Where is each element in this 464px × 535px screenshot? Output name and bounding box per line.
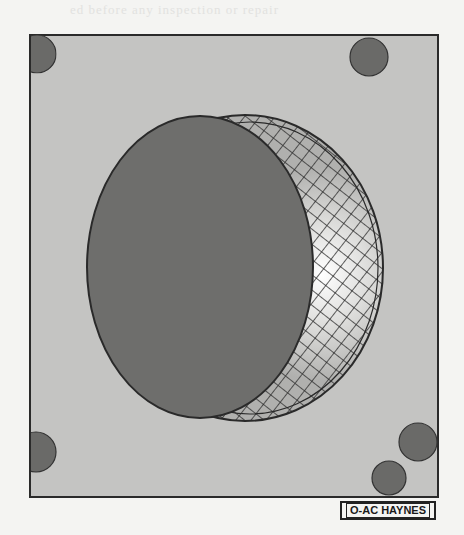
figure-code-label: O-AC HAYNES (346, 503, 430, 518)
dot-bottom-right-lower (372, 461, 406, 495)
solid-disc (87, 116, 313, 418)
dot-top-right (350, 38, 388, 76)
diagram-figure (0, 0, 464, 535)
dot-bottom-right-upper (399, 423, 437, 461)
figure-code-box: O-AC HAYNES (340, 501, 436, 520)
